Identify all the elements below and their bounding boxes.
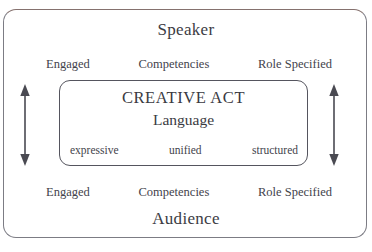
language-qualities-row: expressive unified structured: [70, 144, 298, 156]
double-headed-vertical-arrow-icon: [15, 84, 35, 166]
speaker-attribute-competencies: Competencies: [138, 57, 209, 72]
creative-act-heading: CREATIVE ACT: [59, 88, 308, 108]
audience-attributes-row: Engaged Competencies Role Specified: [46, 185, 332, 200]
language-subheading: Language: [59, 111, 308, 129]
quality-expressive: expressive: [70, 144, 119, 156]
quality-unified: unified: [169, 144, 202, 156]
quality-structured: structured: [252, 144, 298, 156]
speaker-attributes-row: Engaged Competencies Role Specified: [46, 57, 332, 72]
speaker-attribute-engaged: Engaged: [46, 57, 90, 72]
audience-title: Audience: [0, 209, 372, 229]
speaker-attribute-role-specified: Role Specified: [258, 57, 332, 72]
audience-attribute-competencies: Competencies: [138, 185, 209, 200]
audience-attribute-role-specified: Role Specified: [258, 185, 332, 200]
audience-attribute-engaged: Engaged: [46, 185, 90, 200]
double-headed-vertical-arrow-icon: [324, 84, 344, 166]
speaker-title: Speaker: [0, 20, 372, 40]
communication-model-diagram: Speaker Engaged Competencies Role Specif…: [0, 0, 372, 252]
